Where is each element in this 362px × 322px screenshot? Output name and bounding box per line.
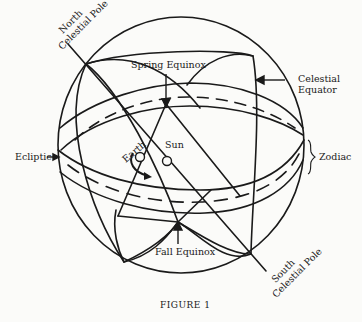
meridian-circle-right [86,51,257,256]
earth-orbit-arrowhead [144,172,152,180]
celestial-equator-label-line1: Celestial [298,73,340,84]
celestial-equator-arrowhead [256,76,264,84]
celestial-equator-label-line2: Equator [298,84,340,95]
zodiac-label: Zodiac [319,151,351,162]
celestial-equator-dashed [75,97,295,140]
celestial-sphere-diagram [0,0,362,322]
sun-label: Sun [165,139,184,150]
line-to-fall-equinox [118,216,178,222]
spring-equinox-label: Spring Equinox [131,59,206,70]
line-sun-fall [178,190,211,222]
figure-caption: FIGURE 1 [160,300,211,311]
ecliptic-label: Ecliptic [15,151,52,162]
celestial-equator-label: Celestial Equator [298,73,340,95]
spring-equinox-arrowhead [162,99,170,107]
fall-equinox-label: Fall Equinox [155,246,215,257]
sun-icon [163,157,172,166]
line-through-sun [166,104,240,196]
zodiac-brace [308,140,315,174]
